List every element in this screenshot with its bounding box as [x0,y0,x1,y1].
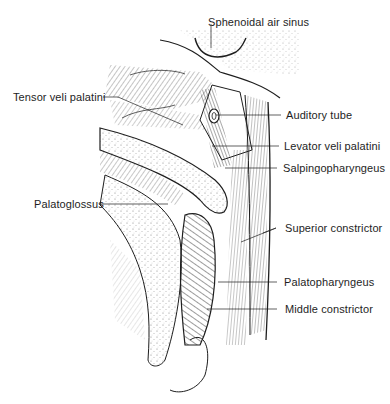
tongue-and-tonsil [100,175,215,392]
label-sphenoidal-air-sinus: Sphenoidal air sinus [208,16,309,28]
label-middle-constrictor: Middle constrictor [285,303,373,315]
label-levator-veli-palatini: Levator veli palatini [284,140,380,152]
label-palatopharyngeus: Palatopharyngeus [284,276,374,288]
label-auditory-tube: Auditory tube [286,109,352,121]
label-superior-constrictor: Superior constrictor [285,222,382,234]
label-palatoglossus: Palatoglossus [34,198,104,210]
label-tensor-veli-palatini: Tensor veli palatini [13,91,106,103]
anatomy-figure: Sphenoidal air sinus Tensor veli palatin… [0,0,390,404]
label-salpingopharyngeus: Salpingopharyngeus [283,162,385,174]
